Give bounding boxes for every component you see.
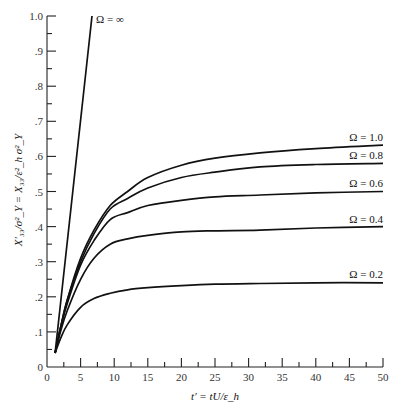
y-tick-label: .2 <box>35 291 43 303</box>
y-tick-label: .8 <box>35 80 44 92</box>
y-tick-label: .7 <box>35 115 44 127</box>
x-axis-title: t′ = tU/ε_h <box>191 390 239 402</box>
label-omega-1-0: Ω = 1.0 <box>349 131 383 143</box>
x-tick-label: 45 <box>344 371 356 383</box>
y-tick-label: 1.0 <box>29 10 43 22</box>
x-tick-label: 30 <box>243 371 255 383</box>
x-tick-label: 10 <box>109 371 121 383</box>
x-tick-label: 20 <box>176 371 188 383</box>
curves <box>55 16 383 353</box>
x-tick-label: 5 <box>78 371 84 383</box>
y-axis-title: X′₃₃/σ²_Y = X₃₃/ε²_h σ²_Y <box>12 132 24 247</box>
x-tick-label: 0 <box>44 371 50 383</box>
x-tick-label: 25 <box>210 371 222 383</box>
y-tick-label: .5 <box>35 186 44 198</box>
label-omega-0-8: Ω = 0.8 <box>349 149 383 161</box>
label-omega-inf: Ω = ∞ <box>96 13 124 25</box>
curve-0.4 <box>55 227 383 353</box>
y-tick-label: .4 <box>35 221 44 233</box>
x-tick-label: 35 <box>277 371 289 383</box>
line-chart: 0.1.2.3.4.5.6.7.8.91.0051015202530354045… <box>0 0 400 411</box>
label-omega-0-2: Ω = 0.2 <box>349 268 383 280</box>
label-omega-0-6: Ω = 0.6 <box>349 177 383 189</box>
x-tick-label: 50 <box>378 371 390 383</box>
y-tick-label: .6 <box>35 150 44 162</box>
y-tick-label: .1 <box>35 326 43 338</box>
y-tick-label: .3 <box>35 256 44 268</box>
x-tick-label: 40 <box>310 371 322 383</box>
y-tick-label: 0 <box>38 361 44 373</box>
curve-0.2 <box>55 283 383 353</box>
x-tick-label: 15 <box>142 371 154 383</box>
label-omega-0-4: Ω = 0.4 <box>349 213 383 225</box>
y-tick-label: .9 <box>35 45 44 57</box>
